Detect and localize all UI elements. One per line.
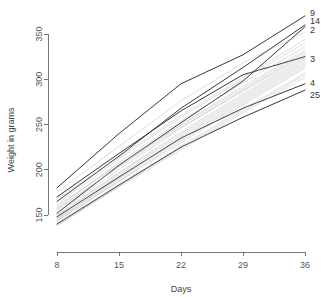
y-tick-label-300: 300 (34, 72, 44, 87)
series-line-s21 (57, 32, 305, 192)
x-tick-label-15: 15 (114, 260, 124, 270)
series-line-s18 (57, 52, 305, 206)
series-line-s22 (57, 56, 305, 209)
series-line-25 (57, 90, 305, 224)
chart-canvas: 150200250300350815222936 91423425 Weight… (0, 0, 327, 301)
series-label-25: 25 (310, 90, 320, 100)
series-label-group: 91423425 (310, 8, 320, 100)
growth-curves-chart: 150200250300350815222936 91423425 Weight… (0, 0, 327, 301)
x-tick-label-36: 36 (300, 260, 310, 270)
series-line-s16 (57, 77, 305, 225)
series-line-14 (57, 25, 305, 201)
x-tick-label-22: 22 (176, 260, 186, 270)
x-axis-title: Days (171, 284, 192, 294)
series-line-2 (57, 27, 305, 213)
y-axis-title: Weight in grams (6, 107, 16, 172)
series-line-s09 (57, 50, 305, 210)
series-label-4: 4 (310, 78, 315, 88)
x-tick-label-29: 29 (238, 260, 248, 270)
series-label-3: 3 (310, 54, 315, 64)
y-tick-label-200: 200 (34, 162, 44, 177)
series-group (57, 16, 305, 226)
y-tick-label-150: 150 (34, 207, 44, 222)
series-line-9 (57, 16, 305, 188)
y-tick-label-350: 350 (34, 26, 44, 41)
series-line-3 (57, 57, 305, 197)
x-tick-label-8: 8 (54, 260, 59, 270)
series-label-2: 2 (310, 25, 315, 35)
series-line-s14 (57, 68, 305, 221)
y-tick-label-250: 250 (34, 117, 44, 132)
